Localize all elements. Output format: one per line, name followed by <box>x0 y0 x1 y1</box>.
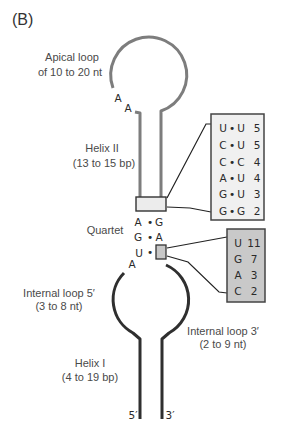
table-row: U • U 5 <box>219 122 260 134</box>
svg-text:•: • <box>147 216 153 228</box>
helix-i-label: Helix I <box>75 357 106 369</box>
svg-text:A: A <box>134 216 142 228</box>
svg-text:•: • <box>229 122 235 134</box>
svg-text:U: U <box>219 122 227 134</box>
internal-loop-and-helix-i <box>113 265 188 419</box>
apical-loop-label: Apical loop <box>45 51 99 63</box>
unpaired-base: A <box>128 258 136 270</box>
table-row: G • U 3 <box>219 188 260 200</box>
table-row: C • U 5 <box>219 139 260 151</box>
apical-base-2: A <box>124 102 132 114</box>
svg-text:•: • <box>229 205 235 217</box>
svg-text:G: G <box>219 188 227 200</box>
svg-text:3: 3 <box>251 269 258 281</box>
svg-text:2: 2 <box>254 205 261 217</box>
connector-line <box>167 237 227 248</box>
svg-text:U: U <box>237 172 245 184</box>
svg-text:U: U <box>237 188 245 200</box>
svg-text:11: 11 <box>247 237 260 249</box>
svg-text:C: C <box>219 156 226 168</box>
panel-label: (B) <box>12 11 33 28</box>
table-row: C • C 4 <box>219 156 260 168</box>
table-row: U 11 <box>234 237 261 249</box>
svg-text:C: C <box>219 139 226 151</box>
helix-ii-size: (13 to 15 bp) <box>73 157 135 169</box>
three-prime-end: 3′ <box>165 409 175 421</box>
internal-loop-5-label: Internal loop 5′ <box>23 287 95 299</box>
helix-ii-label: Helix II <box>85 142 119 154</box>
svg-text:U: U <box>237 122 245 134</box>
internal-loop-3-label: Internal loop 3′ <box>187 325 259 337</box>
svg-text:4: 4 <box>254 172 261 184</box>
quartet-label: Quartet <box>87 224 124 236</box>
svg-text:•: • <box>229 139 235 151</box>
svg-text:G: G <box>155 216 163 228</box>
svg-text:G: G <box>219 205 227 217</box>
apical-base-1: A <box>114 92 122 104</box>
quartet-variable-box <box>156 245 166 259</box>
svg-text:4: 4 <box>254 156 261 168</box>
rna-secondary-structure-diagram: (B) Apical loop of 10 to 20 nt A A Helix… <box>0 0 283 435</box>
svg-text:A: A <box>155 231 163 243</box>
svg-text:G: G <box>234 253 242 265</box>
helix-ii-left-strand <box>135 112 140 197</box>
svg-text:•: • <box>147 246 153 258</box>
helix-ii-terminal-pair-box <box>136 197 166 211</box>
svg-text:G: G <box>237 205 245 217</box>
connector-line <box>167 207 211 212</box>
svg-text:•: • <box>147 231 153 243</box>
svg-text:U: U <box>237 139 245 151</box>
internal-loop-3-strand <box>162 265 189 419</box>
svg-text:G: G <box>134 231 142 243</box>
svg-text:7: 7 <box>251 253 258 265</box>
helix-ii-terminal-pairs-table: U • U 5 C • U 5 C • C 4 A • U 4 G • U 3 <box>211 114 264 220</box>
connector-line <box>167 124 211 198</box>
svg-text:C: C <box>234 285 241 297</box>
table-row: A • U 4 <box>219 172 260 184</box>
svg-text:5: 5 <box>254 139 261 151</box>
svg-text:A: A <box>234 269 242 281</box>
apical-loop-and-helix-ii <box>111 37 187 197</box>
apical-loop-size: of 10 to 20 nt <box>38 66 102 78</box>
svg-text:U: U <box>234 237 242 249</box>
five-prime-end: 5′ <box>128 409 138 421</box>
svg-text:C: C <box>237 156 244 168</box>
internal-loop-3-size: (2 to 9 nt) <box>199 338 246 350</box>
svg-text:5: 5 <box>254 122 261 134</box>
svg-text:•: • <box>229 156 235 168</box>
svg-text:3: 3 <box>254 188 261 200</box>
connector-line <box>167 256 227 293</box>
svg-text:•: • <box>229 172 235 184</box>
helix-i-size: (4 to 19 bp) <box>62 371 118 383</box>
quartet-pairs: A • G G • A U • A <box>128 216 163 270</box>
svg-text:•: • <box>229 188 235 200</box>
apical-loop-strand <box>111 37 187 197</box>
table-row: G • G 2 <box>219 205 260 217</box>
quartet-variable-position-table: U 11 G 7 A 3 C 2 <box>227 229 265 302</box>
internal-loop-5-size: (3 to 8 nt) <box>35 300 82 312</box>
internal-loop-5-strand <box>113 273 140 419</box>
svg-text:2: 2 <box>251 285 258 297</box>
svg-text:A: A <box>219 172 227 184</box>
svg-text:U: U <box>135 247 143 259</box>
